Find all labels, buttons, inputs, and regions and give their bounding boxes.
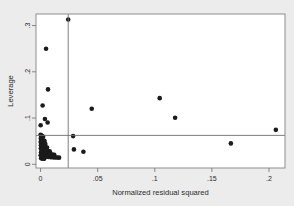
- leverage-scatter-plot: 0.05.1.15.2 0.1.2.3 Normalized residual …: [0, 0, 294, 206]
- data-point: [72, 147, 77, 152]
- x-axis-title: Normalized residual squared: [112, 188, 209, 197]
- x-axis-ticks: 0.05.1.15.2: [39, 168, 272, 182]
- y-tick-label: .2: [25, 69, 32, 75]
- x-tick-label: .05: [93, 175, 103, 182]
- x-tick-label: .2: [266, 175, 272, 182]
- data-point: [274, 128, 279, 133]
- y-tick-label: 0: [25, 162, 32, 166]
- data-point: [38, 123, 43, 128]
- y-axis-ticks: 0.1.2.3: [25, 23, 37, 167]
- data-point: [89, 107, 94, 112]
- data-point: [42, 156, 47, 161]
- y-axis-title: Leverage: [6, 75, 15, 107]
- plot-area-background: [36, 14, 285, 168]
- y-tick-label: .1: [25, 115, 32, 121]
- data-point: [40, 103, 45, 108]
- data-point: [173, 116, 178, 121]
- x-tick-label: 0: [39, 175, 43, 182]
- data-point: [57, 155, 62, 160]
- data-point: [45, 120, 50, 125]
- x-tick-label: .15: [207, 175, 217, 182]
- y-tick-label: .3: [25, 23, 32, 29]
- data-point: [81, 149, 86, 154]
- data-point: [229, 141, 234, 146]
- data-point: [157, 96, 162, 101]
- data-point: [46, 87, 51, 92]
- chart-stage: 0.05.1.15.2 0.1.2.3 Normalized residual …: [0, 0, 294, 206]
- data-point: [71, 134, 76, 139]
- data-point: [44, 46, 49, 51]
- x-tick-label: .1: [152, 175, 158, 182]
